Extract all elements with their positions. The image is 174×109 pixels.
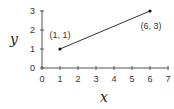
x-tick-label: 0	[39, 74, 44, 84]
chart: 0 1 2 3 4 5 6 7 0 1 2 3 x y (1, 1) (6, 3…	[0, 0, 174, 109]
data-point	[58, 47, 61, 50]
x-tick-label: 5	[129, 74, 134, 84]
x-tick-label: 3	[93, 74, 98, 84]
x-tick-label: 7	[165, 74, 170, 84]
x-tick-label: 4	[111, 74, 116, 84]
y-axis-title: y	[9, 31, 19, 47]
y-tick-label: 1	[30, 44, 35, 54]
data-line	[60, 11, 150, 49]
x-tick-label: 1	[57, 74, 62, 84]
y-tick-label: 3	[30, 6, 35, 16]
x-tick-label: 2	[75, 74, 80, 84]
y-tick-label: 2	[30, 25, 35, 35]
point-label: (1, 1)	[49, 30, 70, 40]
x-axis-title: x	[100, 89, 108, 105]
y-tick-label: 0	[30, 63, 35, 73]
x-tick-label: 6	[147, 74, 152, 84]
data-point	[148, 9, 151, 12]
point-label: (6, 3)	[140, 21, 161, 31]
